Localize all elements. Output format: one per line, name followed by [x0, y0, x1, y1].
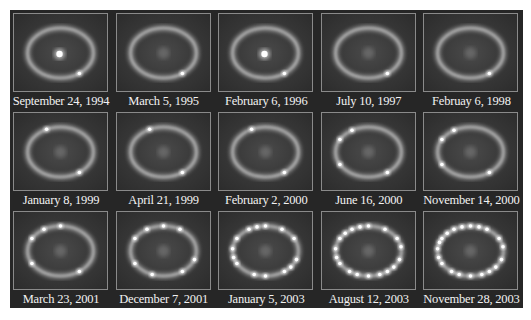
date-label: February 6, 1996 [215, 93, 317, 109]
ring-image [321, 112, 416, 191]
ring-image [218, 13, 313, 92]
image-panel: Februay 6, 1998 [420, 10, 522, 109]
date-label: August 12, 2003 [318, 291, 420, 307]
ring-image [116, 112, 211, 191]
ring-image [423, 13, 518, 92]
date-label: November 14, 2000 [420, 192, 522, 208]
image-panel: November 14, 2000 [420, 109, 522, 208]
image-panel: January 5, 2003 [215, 208, 317, 307]
date-label: July 10, 1997 [318, 93, 420, 109]
date-label: March 23, 2001 [10, 291, 112, 307]
image-panel: July 10, 1997 [318, 10, 420, 109]
image-panel: January 8, 1999 [10, 109, 112, 208]
image-row: January 8, 1999April 21, 1999February 2,… [10, 109, 523, 208]
date-label: Februay 6, 1998 [420, 93, 522, 109]
ring-image [423, 211, 518, 290]
date-label: February 2, 2000 [215, 192, 317, 208]
image-panel: June 16, 2000 [318, 109, 420, 208]
ring-image [116, 211, 211, 290]
image-panel: September 24, 1994 [10, 10, 112, 109]
date-label: January 8, 1999 [10, 192, 112, 208]
ring-image [13, 13, 108, 92]
image-panel: February 2, 2000 [215, 109, 317, 208]
date-label: December 7, 2001 [113, 291, 215, 307]
date-label: November 28, 2003 [420, 291, 522, 307]
image-panel: April 21, 1999 [113, 109, 215, 208]
date-label: January 5, 2003 [215, 291, 317, 307]
image-panel: November 28, 2003 [420, 208, 522, 307]
ring-image [13, 211, 108, 290]
date-label: April 21, 1999 [113, 192, 215, 208]
image-row: March 23, 2001December 7, 2001January 5,… [10, 208, 523, 307]
ring-image [321, 13, 416, 92]
image-panel: December 7, 2001 [113, 208, 215, 307]
image-row: September 24, 1994March 5, 1995February … [10, 10, 523, 109]
ring-image [218, 112, 313, 191]
image-panel: August 12, 2003 [318, 208, 420, 307]
ring-image [423, 112, 518, 191]
image-panel: March 5, 1995 [113, 10, 215, 109]
date-label: March 5, 1995 [113, 93, 215, 109]
image-panel: March 23, 2001 [10, 208, 112, 307]
supernova-ring-grid: September 24, 1994March 5, 1995February … [10, 10, 523, 308]
date-label: June 16, 2000 [318, 192, 420, 208]
ring-image [116, 13, 211, 92]
ring-image [321, 211, 416, 290]
date-label: September 24, 1994 [10, 93, 112, 109]
image-panel: February 6, 1996 [215, 10, 317, 109]
ring-image [218, 211, 313, 290]
ring-image [13, 112, 108, 191]
